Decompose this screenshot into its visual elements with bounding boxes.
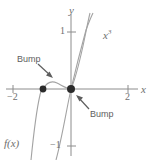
point-left-root bbox=[40, 86, 47, 93]
y-axis-label: y bbox=[69, 5, 74, 16]
x-tick-label-2: 2 bbox=[125, 92, 130, 102]
bump-lower-right-arrow bbox=[76, 95, 89, 109]
x-tick-label-neg2: −2 bbox=[7, 92, 18, 102]
y-tick-label-1: 1 bbox=[60, 26, 65, 36]
y-tick-label-neg1: −1 bbox=[50, 140, 61, 150]
callout-label-bump-lower-right: Bump bbox=[90, 110, 114, 119]
x-axis-label: x bbox=[141, 84, 146, 95]
plot-canvas bbox=[0, 0, 151, 160]
curve-label-fx: f(x) bbox=[4, 138, 19, 149]
callout-label-bump-upper-left: Bump bbox=[17, 55, 41, 64]
curve-label-x-cubed-exponent: 3 bbox=[108, 28, 112, 36]
function-graph-figure: y x f(x) x3 1 −1 −2 2 Bump Bump bbox=[0, 0, 151, 160]
curve-label-x-cubed: x3 bbox=[103, 29, 111, 41]
bump-upper-left-arrow bbox=[38, 64, 53, 78]
point-origin-root bbox=[67, 85, 75, 93]
